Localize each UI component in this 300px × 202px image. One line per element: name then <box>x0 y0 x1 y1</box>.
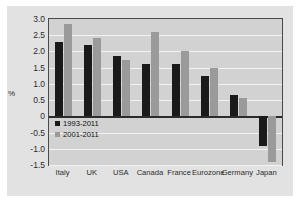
y-tick-label: 3.0 <box>9 15 45 24</box>
x-tick-label: UK <box>86 169 97 177</box>
y-tick-label: 1.5 <box>9 63 45 72</box>
y-tick-label: 0.5 <box>9 96 45 105</box>
plot-area <box>48 18 283 166</box>
bar <box>210 68 218 117</box>
bar <box>113 56 121 116</box>
y-tick-label: -0.5 <box>9 128 45 137</box>
y-axis-tick-labels: 3.02.52.01.51.00.50-0.5-1.0-1.5 <box>7 18 45 166</box>
gridline <box>49 35 282 36</box>
x-tick-label: Japan <box>256 169 277 177</box>
legend-label: 2001-2011 <box>63 129 99 140</box>
bar <box>55 42 63 117</box>
x-tick-label: Eurozone <box>192 169 225 177</box>
x-axis-tick-labels: ItalyUKUSACanadaFranceEurozoneGermanyJap… <box>48 169 283 183</box>
x-tick-label: Canada <box>137 169 164 177</box>
legend-swatch-icon <box>55 121 60 126</box>
bar <box>239 98 247 116</box>
y-tick-label: 2.0 <box>9 47 45 56</box>
bar <box>259 116 267 145</box>
y-tick-label: -1.0 <box>9 145 45 154</box>
legend-label: 1993-2011 <box>63 118 99 129</box>
bar <box>142 64 150 116</box>
x-tick-label: USA <box>113 169 129 177</box>
bar <box>151 32 159 116</box>
y-tick-label: 2.5 <box>9 31 45 40</box>
bar <box>64 24 72 116</box>
chart-figure: % 3.02.52.01.51.00.50-0.5-1.0-1.5 ItalyU… <box>7 6 293 196</box>
y-tick-label: 0 <box>9 112 45 121</box>
legend-item: 2001-2011 <box>55 129 99 140</box>
chart-legend: 1993-20112001-2011 <box>55 118 99 140</box>
bar <box>122 60 130 117</box>
bar <box>172 64 180 116</box>
bar <box>201 76 209 117</box>
x-tick-label: Germany <box>222 169 253 177</box>
legend-item: 1993-2011 <box>55 118 99 129</box>
bar <box>84 45 92 116</box>
y-tick-label: 1.0 <box>9 80 45 89</box>
gridline <box>49 165 282 166</box>
y-tick-label: -1.5 <box>9 161 45 170</box>
gridline <box>49 149 282 150</box>
legend-swatch-icon <box>55 132 60 137</box>
x-tick-label: Italy <box>56 169 70 177</box>
bar <box>93 38 101 116</box>
bar <box>181 51 189 116</box>
x-tick-label: France <box>167 169 191 177</box>
bar <box>230 95 238 116</box>
bar <box>268 116 276 161</box>
